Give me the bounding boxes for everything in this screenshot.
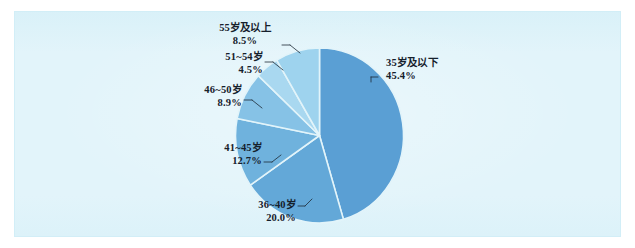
pie-label-41-45: 41~45岁 12.7%	[156, 142, 262, 167]
pie-label-35-and-under: 35岁及以下 45.4%	[386, 57, 438, 82]
pie-label-category: 41~45岁	[156, 142, 262, 155]
pie-label-category: 36~40岁	[188, 199, 296, 212]
pie-label-46-50: 46~50岁 8.9%	[136, 84, 242, 109]
figure-root: 35岁及以下 45.4% 36~40岁 20.0% 41~45岁 12.7% 4…	[0, 0, 635, 248]
pie-label-category: 46~50岁	[136, 84, 242, 97]
pie-label-55-and-over: 55岁及以上 8.5%	[210, 22, 280, 47]
pie-label-51-54: 51~54岁 4.5%	[157, 51, 263, 76]
pie-label-percent: 8.9%	[136, 97, 242, 110]
pie-label-percent: 8.5%	[210, 35, 280, 48]
pie-label-category: 55岁及以上	[210, 22, 280, 35]
pie-label-36-40: 36~40岁 20.0%	[188, 199, 296, 224]
pie-chart: 35岁及以下 45.4% 36~40岁 20.0% 41~45岁 12.7% 4…	[0, 0, 635, 248]
pie-label-percent: 20.0%	[188, 212, 296, 225]
pie-label-percent: 45.4%	[386, 70, 438, 83]
pie-label-category: 35岁及以下	[386, 57, 438, 70]
pie-svg	[0, 0, 635, 248]
pie-label-category: 51~54岁	[157, 51, 263, 64]
pie-label-percent: 4.5%	[157, 64, 263, 77]
pie-label-percent: 12.7%	[156, 155, 262, 168]
